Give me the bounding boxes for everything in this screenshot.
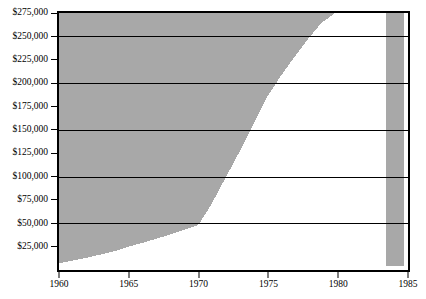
y-axis-tick-label: $25,000 xyxy=(17,242,51,252)
y-axis-tick-label: $250,000 xyxy=(12,32,51,42)
x-axis-tick-label: 1985 xyxy=(399,280,418,290)
y-axis-tick-label: $225,000 xyxy=(12,55,51,65)
x-axis-tick-mark xyxy=(198,272,199,278)
x-axis-tick-label: 1970 xyxy=(189,280,208,290)
chart-container: $25,000$50,000$75,000$100,000$125,000$15… xyxy=(0,0,426,299)
gridline xyxy=(59,36,408,37)
plot-area xyxy=(57,11,410,272)
x-axis-tick-label: 1975 xyxy=(259,280,278,290)
gridline xyxy=(59,83,408,84)
x-axis-tick-label: 1980 xyxy=(329,280,348,290)
y-axis-tick-label: $125,000 xyxy=(12,148,51,158)
gridline xyxy=(59,223,408,224)
x-axis-tick-label: 1960 xyxy=(50,280,69,290)
x-axis-tick-label: 1965 xyxy=(119,280,138,290)
x-axis-tick-mark xyxy=(268,272,269,278)
x-axis-tick: 1970 xyxy=(189,272,208,290)
area-series-fill xyxy=(59,13,408,270)
x-axis-tick: 1960 xyxy=(50,272,69,290)
x-axis-tick-mark xyxy=(408,272,409,278)
y-axis-tick-label: $100,000 xyxy=(12,172,51,182)
x-axis-tick: 1980 xyxy=(329,272,348,290)
y-axis-tick-label: $50,000 xyxy=(17,219,51,229)
x-axis-tick-mark xyxy=(59,272,60,278)
y-axis-tick-label: $175,000 xyxy=(12,102,51,112)
y-axis-tick-label: $75,000 xyxy=(17,195,51,205)
y-axis-tick-label: $200,000 xyxy=(12,78,51,88)
gridline xyxy=(59,130,408,131)
x-axis: 196019651970197519801985 xyxy=(0,272,426,299)
y-axis-tick-label: $150,000 xyxy=(12,125,51,135)
y-axis: $25,000$50,000$75,000$100,000$125,000$15… xyxy=(0,0,57,299)
x-axis-tick-mark xyxy=(128,272,129,278)
y-axis-tick-label: $275,000 xyxy=(12,8,51,18)
x-axis-tick: 1975 xyxy=(259,272,278,290)
gridline xyxy=(59,177,408,178)
x-axis-tick: 1965 xyxy=(119,272,138,290)
x-axis-tick-mark xyxy=(338,272,339,278)
x-axis-tick: 1985 xyxy=(399,272,418,290)
